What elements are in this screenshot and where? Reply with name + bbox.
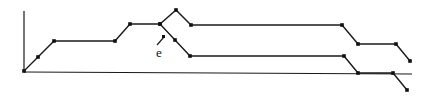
lower-branch-node-1 — [173, 38, 177, 42]
upper-branch-node-6 — [174, 8, 178, 12]
upper-branch-node-1 — [36, 55, 40, 59]
x-axis — [24, 72, 412, 74]
lower-branch-node-4 — [356, 71, 360, 75]
annotation-label-e: e — [156, 45, 162, 60]
lower-branch-node-3 — [342, 54, 346, 58]
upper-branch-node-3 — [113, 39, 117, 43]
lower-branch-node-0 — [158, 22, 162, 26]
upper-branch-node-8 — [340, 23, 344, 27]
lower-branch-node-5 — [391, 71, 395, 75]
upper-branch-node-11 — [408, 59, 412, 63]
upper-branch-node-10 — [394, 42, 398, 46]
annotation-arrow-head — [162, 35, 165, 38]
lower-branch-line — [160, 24, 407, 90]
annotation-arrow — [157, 37, 164, 45]
upper-branch-node-4 — [128, 22, 132, 26]
step-diagram: e — [0, 0, 433, 99]
upper-branch-node-9 — [356, 42, 360, 46]
lower-branch-node-6 — [405, 88, 409, 92]
diagram-canvas: e — [0, 0, 433, 99]
upper-branch-line — [24, 10, 410, 71]
upper-branch-node-2 — [52, 39, 56, 43]
upper-branch-node-0 — [22, 69, 26, 73]
upper-branch-node-7 — [189, 23, 193, 27]
lower-branch-node-2 — [188, 54, 192, 58]
